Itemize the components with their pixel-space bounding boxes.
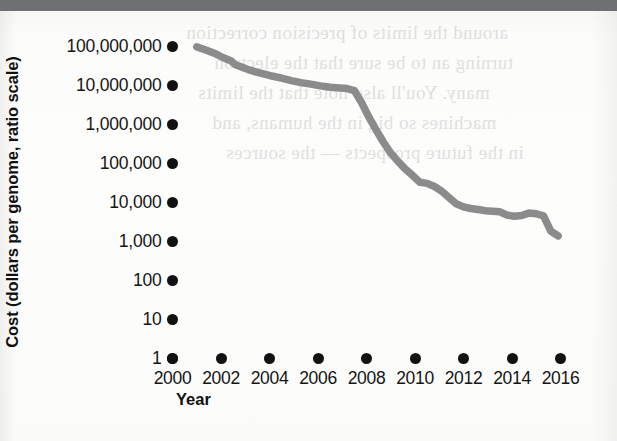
y-axis-tick-label: 100,000,000 [66, 36, 161, 57]
x-axis-tick-dot [264, 353, 275, 364]
y-axis-tick-label: 10,000,000 [76, 75, 162, 96]
x-axis-tick-dot [361, 353, 372, 364]
y-axis-tick-label: 1 [152, 348, 162, 369]
figure-page: around the limits of precision correctio… [0, 0, 617, 441]
x-axis-title: Year [176, 390, 211, 409]
y-axis-tick-label: 1,000 [119, 231, 162, 252]
x-axis-tick-label: 2012 [445, 368, 483, 389]
y-axis-title: Cost (dollars per genome, ratio scale) [3, 56, 22, 347]
x-axis-tick-dot [458, 353, 469, 364]
x-axis-tick-dot [507, 353, 518, 364]
y-axis-tick-dot [167, 314, 178, 325]
x-axis-tick-label: 2010 [396, 368, 434, 389]
x-axis-tick-label: 2006 [299, 368, 337, 389]
y-axis-tick-dot [167, 236, 178, 247]
y-axis-tick-label: 10 [142, 309, 161, 330]
y-axis-tick-dot [167, 119, 178, 130]
y-axis-tick-label: 100,000 [100, 153, 162, 174]
x-axis-tick-label: 2000 [154, 368, 192, 389]
y-axis-tick-dot [167, 197, 178, 208]
y-axis-tick-dot [167, 158, 178, 169]
y-axis-tick-dot [167, 275, 178, 286]
x-axis-tick-dot [167, 353, 178, 364]
x-axis-tick-label: 2008 [348, 368, 386, 389]
x-axis-tick-dot [313, 353, 324, 364]
x-axis-tick-dot [216, 353, 227, 364]
chart-plot-area: 100,000,00010,000,0001,000,000100,00010,… [0, 0, 617, 441]
x-axis-tick-label: 2002 [202, 368, 240, 389]
x-axis-tick-dot [555, 353, 566, 364]
y-axis-tick-label: 100 [133, 270, 162, 291]
x-axis-tick-label: 2014 [493, 368, 531, 389]
y-axis-tick-dot [167, 41, 178, 52]
y-axis-tick-label: 10,000 [109, 192, 161, 213]
x-axis-tick-label: 2004 [251, 368, 289, 389]
x-axis-tick-dot [410, 353, 421, 364]
y-axis-tick-dot [167, 80, 178, 91]
y-axis-tick-label: 1,000,000 [85, 114, 161, 135]
x-axis-tick-label: 2016 [542, 368, 580, 389]
cost-per-genome-line [197, 47, 558, 236]
